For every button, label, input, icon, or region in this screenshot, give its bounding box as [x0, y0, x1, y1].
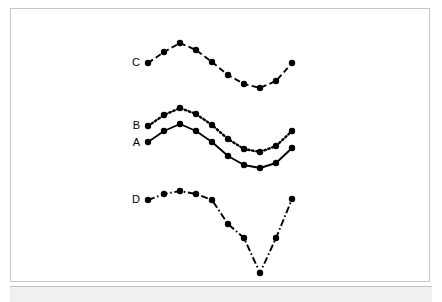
data-point-b-5: [225, 136, 231, 142]
data-point-d-5: [225, 221, 231, 227]
data-point-c-3: [193, 47, 199, 53]
data-point-a-0: [145, 139, 151, 145]
data-point-d-7: [257, 270, 263, 276]
series-label-a: A: [133, 136, 141, 148]
data-point-d-9: [289, 196, 295, 202]
data-point-b-2: [177, 105, 183, 111]
data-point-c-6: [241, 81, 247, 87]
series-label-b: B: [133, 119, 140, 131]
data-point-b-9: [289, 128, 295, 134]
bottom-strip: [10, 286, 432, 302]
data-point-c-4: [209, 59, 215, 65]
data-point-a-2: [177, 121, 183, 127]
data-point-a-1: [161, 128, 167, 134]
data-point-d-0: [145, 197, 151, 203]
data-point-b-7: [257, 149, 263, 155]
data-point-a-6: [241, 162, 247, 168]
data-point-b-0: [145, 123, 151, 129]
series-label-c: C: [132, 56, 140, 68]
data-point-c-1: [161, 49, 167, 55]
data-point-d-4: [209, 197, 215, 203]
data-point-a-5: [225, 153, 231, 159]
data-point-d-3: [193, 191, 199, 197]
data-point-b-1: [161, 112, 167, 118]
data-point-d-6: [241, 235, 247, 241]
data-point-b-8: [273, 143, 279, 149]
data-point-b-3: [193, 111, 199, 117]
series-line-b: [148, 108, 292, 152]
data-point-a-7: [257, 165, 263, 171]
data-point-a-8: [273, 160, 279, 166]
data-point-c-2: [177, 40, 183, 46]
series-line-a: [148, 124, 292, 168]
data-point-d-2: [177, 188, 183, 194]
data-point-b-4: [209, 122, 215, 128]
series-line-d: [148, 191, 292, 273]
series-label-layer: ABCD: [132, 56, 141, 205]
data-point-a-9: [289, 145, 295, 151]
data-point-d-8: [273, 235, 279, 241]
line-chart-plot: ABCD: [0, 0, 442, 302]
data-point-d-1: [161, 191, 167, 197]
data-point-c-9: [289, 60, 295, 66]
series-line-c: [148, 43, 292, 88]
data-point-c-8: [273, 78, 279, 84]
data-point-a-4: [209, 139, 215, 145]
data-point-c-5: [225, 72, 231, 78]
series-label-d: D: [132, 193, 140, 205]
data-point-c-0: [145, 60, 151, 66]
chart-screenshot: ABCD: [0, 0, 442, 302]
data-point-b-6: [241, 146, 247, 152]
data-point-a-3: [193, 128, 199, 134]
series-layer: [145, 40, 295, 276]
data-point-c-7: [257, 85, 263, 91]
